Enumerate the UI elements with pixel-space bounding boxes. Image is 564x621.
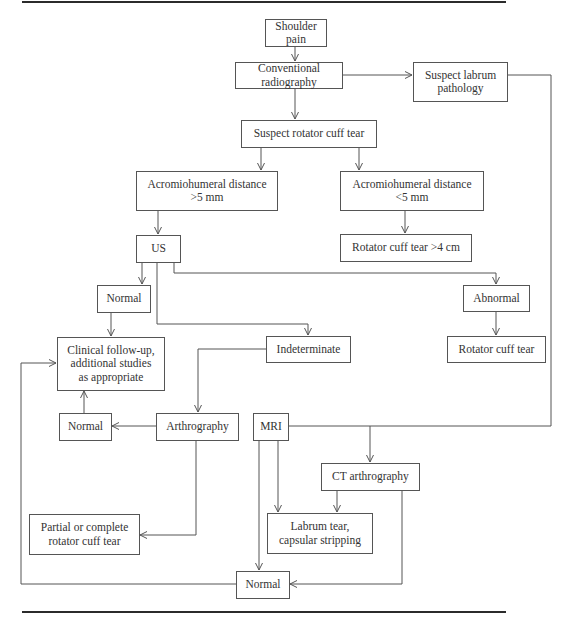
node-mri: MRI	[253, 413, 289, 441]
node-acromiohumeral-lt5: Acromiohumeral distance <5 mm	[340, 171, 484, 211]
node-acromiohumeral-gt5: Acromiohumeral distance >5 mm	[136, 171, 278, 211]
node-rotator-cuff-tear-gt4cm: Rotator cuff tear >4 cm	[340, 234, 472, 262]
node-conventional-radiography: Conventional radiography	[235, 62, 343, 89]
node-arthrography: Arthrography	[156, 413, 239, 441]
node-arthrography-normal: Normal	[59, 413, 112, 441]
node-shoulder-pain: Shoulder pain	[265, 19, 327, 47]
node-partial-or-complete-tear: Partial or complete rotator cuff tear	[29, 514, 140, 555]
node-us: US	[136, 235, 181, 263]
node-ct-arthrography: CT arthrography	[321, 463, 420, 491]
node-labrum-tear: Labrum tear, capsular stripping	[267, 513, 373, 554]
node-suspect-rotator-cuff-tear: Suspect rotator cuff tear	[241, 120, 377, 148]
node-us-abnormal: Abnormal	[463, 285, 530, 312]
node-suspect-labrum-pathology: Suspect labrum pathology	[413, 62, 508, 102]
node-clinical-follow-up: Clinical follow-up, additional studies a…	[57, 337, 165, 391]
node-mri-normal: Normal	[236, 571, 290, 599]
node-indeterminate: Indeterminate	[266, 336, 351, 363]
node-rotator-cuff-tear: Rotator cuff tear	[447, 336, 546, 363]
node-us-normal: Normal	[97, 285, 151, 313]
